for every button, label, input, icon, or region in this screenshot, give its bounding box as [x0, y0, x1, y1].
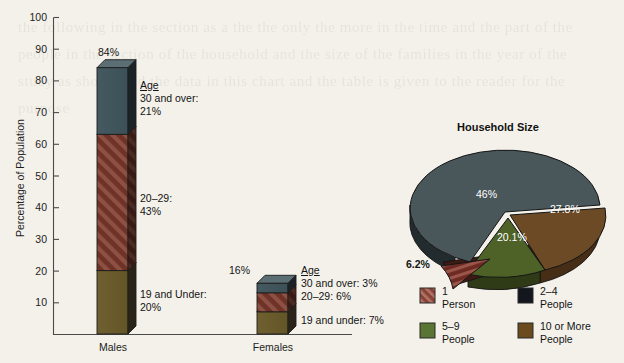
legend-label-5-9-people-line1: 5–9 — [442, 320, 460, 332]
legend-item-1-person: 1 Person — [442, 285, 475, 310]
legend-label-10-or-more-people-line1: 10 or More — [540, 320, 591, 332]
legend-label-1-person-line1: 1 — [442, 285, 448, 297]
legend-item-10-or-more-people: 10 or More People — [540, 320, 591, 345]
legend-label-5-9-people-line2: People — [442, 333, 475, 345]
legend-swatch-10-or-more-people — [518, 323, 533, 338]
legend-label-1-person-line2: Person — [442, 298, 475, 310]
legend-swatches — [0, 0, 624, 363]
legend-label-2-4-people-line1: 2–4 — [540, 285, 558, 297]
chart-figure: the following in the section as a the th… — [0, 0, 624, 363]
legend-swatch-5-9-people — [420, 323, 435, 338]
legend-item-5-9-people: 5–9 People — [442, 320, 475, 345]
legend-label-2-4-people-line2: People — [540, 298, 573, 310]
legend-item-2-4-people: 2–4 People — [540, 285, 573, 310]
legend-label-10-or-more-people-line2: People — [540, 333, 573, 345]
legend-swatch-1-person — [420, 288, 435, 303]
legend-swatch-2-4-people — [518, 288, 533, 303]
